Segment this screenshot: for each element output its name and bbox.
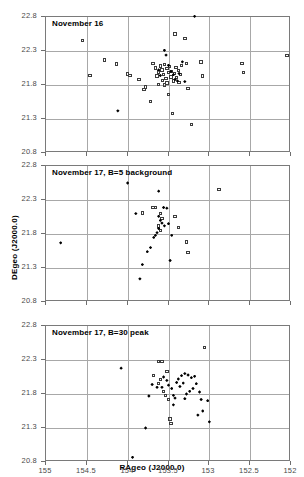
data-point-filled [190,376,193,379]
x-tick-mark [290,461,291,465]
data-point-open [103,58,106,61]
data-point-filled [160,386,163,389]
data-point-filled [144,426,147,429]
x-tick-label: 154 [112,467,142,475]
data-point-open [186,251,189,254]
data-point-filled [201,409,204,412]
x-tick-label: 154.5 [71,467,101,475]
x-tick-mark [290,301,291,305]
y-tick-mark [41,199,45,200]
gridline-vertical [169,166,170,300]
data-point-filled [146,250,149,253]
data-point-filled [170,387,173,390]
y-tick-mark [41,267,45,268]
x-tick-label: 152 [275,467,304,475]
data-point-open [169,422,172,425]
y-tick-label: 20.8 [11,148,37,156]
data-point-open [164,77,167,80]
data-point-open [242,71,245,74]
x-tick-mark [168,461,169,465]
data-point-open [199,60,202,63]
data-point-filled [149,246,152,249]
x-tick-mark [290,152,291,156]
data-point-filled [193,375,196,378]
data-point-open [128,74,131,77]
x-tick-mark [208,461,209,465]
data-point-filled [157,189,160,192]
data-point-open [154,206,157,209]
x-tick-mark [86,301,87,305]
plot-area-3 [45,325,290,461]
x-tick-mark [127,461,128,465]
panel-title-3: November 17, B=30 peak [52,328,149,337]
data-point-open [168,417,171,420]
data-point-open [137,78,140,81]
panel-november-17-peak: November 17, B=30 peak [0,320,304,477]
gridline-vertical [128,326,129,460]
y-tick-mark [41,393,45,394]
data-point-filled [119,366,122,369]
gridline-vertical [169,326,170,460]
data-point-open [173,32,176,35]
data-point-open [165,81,168,84]
data-point-open [240,62,243,65]
gridline-horizontal [46,360,289,361]
gridline-horizontal [46,234,289,235]
y-tick-mark [41,233,45,234]
data-point-open [185,240,188,243]
data-point-open [162,390,165,393]
panel-title-2: November 17, B=5 background [52,168,172,177]
data-point-open [149,100,152,103]
x-tick-mark [45,152,46,156]
data-point-open [164,394,167,397]
panel-title-1: November 16 [52,19,103,28]
data-point-filled [163,224,166,227]
x-tick-mark [127,301,128,305]
data-point-open [81,39,84,42]
y-tick-label: 21.8 [11,229,37,237]
data-point-filled [155,386,158,389]
data-point-filled [196,413,199,416]
data-point-open [167,398,170,401]
panel-november-16: November 16 [0,0,304,158]
y-tick-mark [41,427,45,428]
data-point-open [203,346,206,349]
data-point-open [159,64,162,67]
data-point-filled [172,403,175,406]
x-tick-mark [86,461,87,465]
y-tick-label: 22.3 [11,46,37,54]
scatter-figure: November 16 November 17, B=5 background … [0,0,304,477]
data-point-open [160,360,163,363]
y-tick-label: 22.3 [11,355,37,363]
gridline-vertical [250,17,251,151]
data-point-open [159,212,162,215]
x-tick-mark [127,152,128,156]
gridline-vertical [250,326,251,460]
data-point-filled [183,80,186,83]
data-point-open [165,370,168,373]
data-point-filled [134,212,137,215]
y-tick-mark [41,359,45,360]
data-point-open [177,226,180,229]
gridline-vertical [87,17,88,151]
data-point-open [154,66,157,69]
x-tick-mark [45,301,46,305]
gridline-vertical [169,17,170,151]
gridline-horizontal [46,200,289,201]
x-tick-mark [249,461,250,465]
data-point-open [163,63,166,66]
plot-area-2 [45,165,290,301]
x-tick-mark [168,301,169,305]
data-point-open [217,188,220,191]
data-point-filled [150,383,153,386]
y-tick-label: 21.3 [11,114,37,122]
data-point-open [183,37,186,40]
data-point-open [152,374,155,377]
y-tick-label: 20.8 [11,297,37,305]
y-tick-mark [41,165,45,166]
y-tick-mark [41,16,45,17]
gridline-horizontal [46,51,289,52]
panel-november-17-background: November 17, B=5 background [0,160,304,318]
data-point-filled [199,398,202,401]
gridline-vertical [128,17,129,151]
